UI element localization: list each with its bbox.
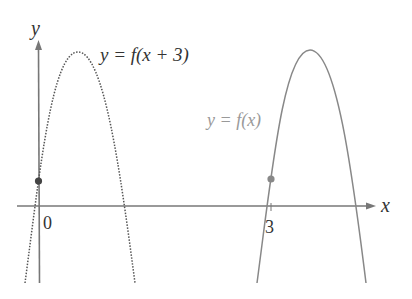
tick-3-label: 3 (265, 217, 274, 237)
y-axis-label: y (29, 17, 40, 40)
y-axis (35, 40, 42, 283)
point-y-intercept (35, 177, 42, 184)
y-axis-arrow-icon (35, 40, 42, 50)
x-axis-arrow-icon (366, 203, 376, 210)
origin-label: 0 (43, 213, 52, 233)
label-f-x: y = f(x) (205, 110, 261, 131)
curve-f-x (257, 50, 366, 283)
transformation-diagram: y x 0 3 y = f(x + 3) y = f(x) (0, 0, 412, 299)
curve-f-x-plus-3 (25, 52, 135, 283)
label-f-x-plus-3: y = f(x + 3) (98, 44, 189, 66)
point-x3 (267, 175, 274, 182)
x-axis (17, 203, 376, 210)
x-axis-label: x (380, 194, 390, 216)
